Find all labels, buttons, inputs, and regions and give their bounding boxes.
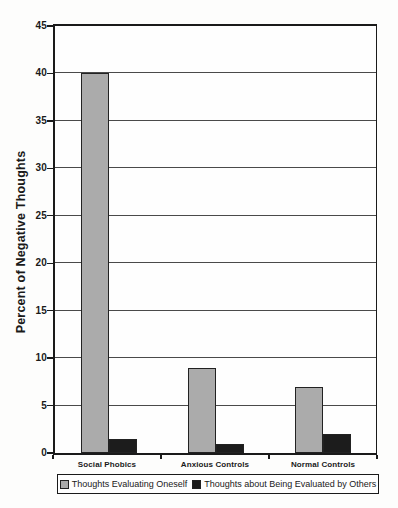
bar — [81, 73, 109, 453]
y-tick-label: 20 — [23, 257, 47, 269]
legend-label: Thoughts about Being Evaluated by Others — [204, 479, 376, 489]
x-tick-mark — [376, 455, 377, 459]
y-tick-label: 15 — [23, 305, 47, 317]
x-axis-label: Social Phobics — [53, 460, 161, 469]
bar — [216, 444, 244, 453]
bar — [323, 434, 351, 453]
y-tick-label: 10 — [23, 352, 47, 364]
legend-label: Thoughts Evaluating Oneself — [72, 479, 188, 489]
bar — [109, 439, 137, 453]
legend-item: Thoughts Evaluating Oneself — [60, 479, 188, 489]
bar — [295, 387, 323, 453]
y-tick-mark — [47, 452, 53, 453]
y-tick-mark — [47, 215, 53, 216]
x-axis-label: Normal Controls — [269, 460, 377, 469]
y-tick-mark — [47, 168, 53, 169]
x-tick-mark — [268, 455, 269, 459]
bar — [188, 368, 216, 453]
y-tick-label: 45 — [23, 20, 47, 32]
legend-swatch-gray — [60, 480, 69, 489]
legend-swatch-black — [192, 480, 201, 489]
y-tick-label: 40 — [23, 67, 47, 79]
y-tick-mark — [47, 73, 53, 74]
figure: Percent of Negative Thoughts 05101520253… — [0, 0, 398, 508]
y-tick-mark — [47, 357, 53, 358]
legend-item: Thoughts about Being Evaluated by Others — [192, 479, 376, 489]
x-tick-mark — [52, 455, 53, 459]
y-tick-label: 25 — [23, 210, 47, 222]
y-tick-label: 35 — [23, 115, 47, 127]
y-tick-mark — [47, 120, 53, 121]
y-tick-label: 0 — [23, 447, 47, 459]
y-tick-label: 30 — [23, 162, 47, 174]
y-tick-mark — [47, 310, 53, 311]
x-axis-label: Anxious Controls — [161, 460, 269, 469]
legend: Thoughts Evaluating Oneself Thoughts abo… — [57, 474, 379, 494]
plot-area — [53, 24, 377, 455]
x-tick-mark — [160, 455, 161, 459]
y-tick-mark — [47, 263, 53, 264]
y-tick-mark — [47, 25, 53, 26]
y-tick-label: 5 — [23, 400, 47, 412]
y-tick-mark — [47, 405, 53, 406]
